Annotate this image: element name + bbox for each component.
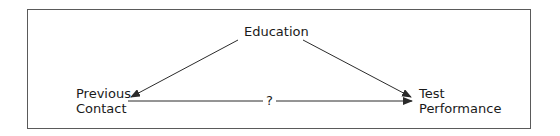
- node-previous-contact-line1: Previous: [76, 86, 131, 101]
- node-test-performance: Test Performance: [419, 86, 501, 116]
- edge-education-to-previous-contact: [131, 40, 238, 97]
- node-previous-contact-line2: Contact: [76, 101, 131, 116]
- node-test-performance-line1: Test: [419, 86, 501, 101]
- edge-label-question: ?: [263, 93, 276, 108]
- node-previous-contact: Previous Contact: [76, 86, 131, 116]
- node-education: Education: [244, 24, 309, 39]
- node-education-label: Education: [244, 24, 309, 39]
- edge-education-to-test-performance: [303, 40, 411, 97]
- node-test-performance-line2: Performance: [419, 101, 501, 116]
